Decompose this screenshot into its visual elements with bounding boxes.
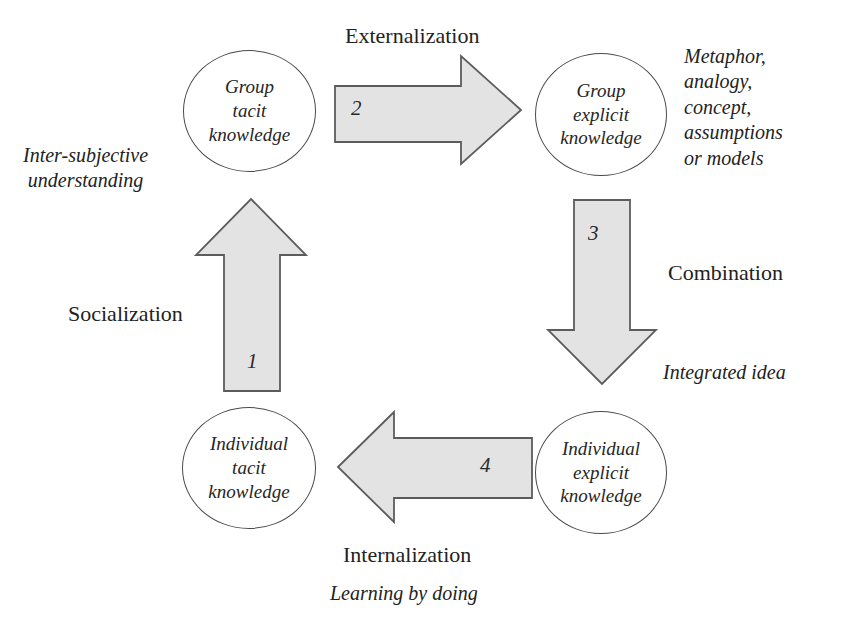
node-line: knowledge [560,484,641,508]
node-group-tacit-knowledge[interactable]: Group tacit knowledge [183,50,316,172]
arrow-left-internalization-icon[interactable] [336,410,534,524]
node-line: knowledge [560,126,641,150]
step-number-2: 2 [351,96,362,121]
node-line: explicit [573,461,629,485]
node-line: explicit [573,103,629,127]
node-line: knowledge [208,480,289,504]
label-internalization: Internalization [343,541,471,569]
step-number-1: 1 [247,349,258,374]
label-socialization: Socialization [68,300,183,328]
seci-diagram: Group tacit knowledge Group explicit kno… [0,0,848,642]
note-learning-by-doing: Learning by doing [330,581,478,606]
step-number-4: 4 [480,453,491,478]
node-individual-explicit-knowledge[interactable]: Individual explicit knowledge [535,411,667,534]
arrow-down-combination-icon[interactable] [546,198,658,386]
node-line: knowledge [209,123,290,147]
node-line: Individual [210,432,288,456]
label-combination: Combination [668,259,783,287]
note-metaphor-analogy: Metaphor, analogy, concept, assumptions … [684,44,783,171]
node-line: tacit [233,99,267,123]
step-number-3: 3 [588,221,599,246]
node-line: tacit [232,456,266,480]
node-individual-tacit-knowledge[interactable]: Individual tacit knowledge [182,407,316,529]
node-line: Group [225,75,274,99]
note-integrated-idea: Integrated idea [663,360,786,385]
note-intersubjective: Inter-subjective understanding [23,143,148,194]
node-group-explicit-knowledge[interactable]: Group explicit knowledge [535,53,667,176]
node-line: Group [577,79,626,103]
label-externalization: Externalization [345,22,479,50]
node-line: Individual [562,437,640,461]
